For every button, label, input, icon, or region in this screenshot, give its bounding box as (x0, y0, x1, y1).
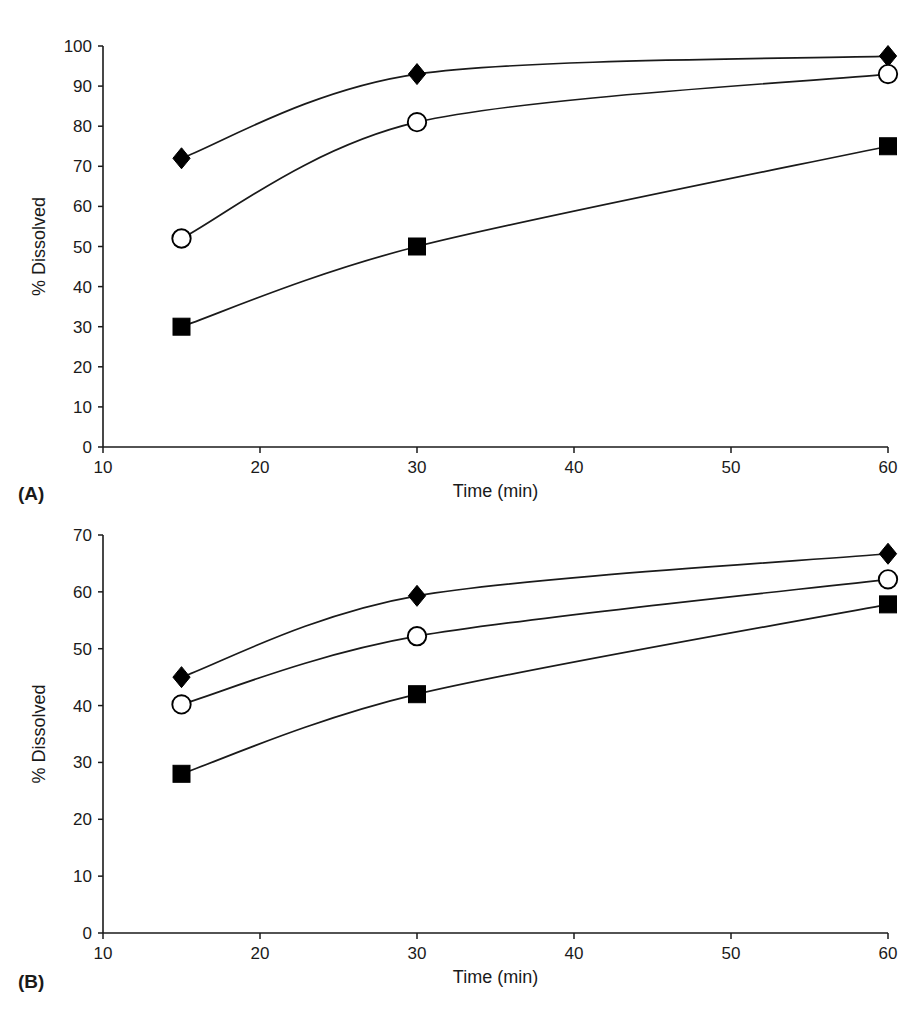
y-axis-title: % Dissolved (29, 197, 49, 296)
series-line-filled-square (182, 146, 889, 326)
x-tick-label: 10 (94, 944, 113, 963)
data-point-diamond (879, 543, 896, 564)
data-point-diamond (173, 667, 190, 688)
series-line-filled-diamond (182, 56, 889, 158)
y-tick-label: 70 (73, 526, 92, 545)
x-tick-label: 40 (565, 944, 584, 963)
panel-letter: (B) (18, 971, 44, 992)
series-filled-diamond (173, 543, 897, 687)
y-axis-title: % Dissolved (29, 684, 49, 783)
data-point-circle (408, 627, 426, 645)
y-tick-label: 40 (73, 278, 92, 297)
y-tick-label: 40 (73, 697, 92, 716)
data-point-circle (879, 65, 897, 83)
y-tick-label: 100 (64, 37, 92, 56)
series-open-circle (172, 570, 897, 713)
y-tick-label: 30 (73, 318, 92, 337)
data-point-diamond (408, 64, 425, 85)
series-filled-square (173, 138, 897, 335)
series-line-open-circle (182, 74, 889, 238)
series-line-filled-square (182, 604, 889, 773)
data-point-diamond (408, 585, 425, 606)
data-point-square (409, 238, 426, 255)
series-line-open-circle (182, 579, 889, 704)
data-point-circle (172, 695, 190, 713)
data-point-circle (879, 570, 897, 588)
data-point-diamond (879, 46, 896, 67)
y-tick-label: 60 (73, 197, 92, 216)
series-filled-diamond (173, 46, 897, 169)
x-axis-title: Time (min) (453, 481, 538, 501)
data-point-square (173, 318, 190, 335)
y-tick-label: 10 (73, 867, 92, 886)
y-tick-label: 90 (73, 77, 92, 96)
figure-root: — ———— — 0102030405060708090100102030405… (0, 0, 923, 1019)
y-tick-label: 70 (73, 157, 92, 176)
x-tick-label: 60 (879, 944, 898, 963)
y-tick-label: 0 (83, 438, 92, 457)
data-point-square (880, 138, 897, 155)
chart-svg-panel-b: 010203040506070102030405060Time (min)% D… (0, 510, 923, 1019)
x-tick-label: 20 (251, 458, 270, 477)
y-tick-label: 50 (73, 238, 92, 257)
y-tick-label: 80 (73, 117, 92, 136)
chart-panel-b: 010203040506070102030405060Time (min)% D… (0, 510, 923, 1019)
y-tick-label: 10 (73, 398, 92, 417)
data-point-square (880, 596, 897, 613)
y-tick-label: 30 (73, 753, 92, 772)
series-line-filled-diamond (182, 554, 889, 677)
data-point-diamond (173, 148, 190, 169)
x-tick-label: 10 (94, 458, 113, 477)
data-point-square (173, 765, 190, 782)
x-tick-label: 30 (408, 458, 427, 477)
data-point-circle (408, 113, 426, 131)
x-axis-title: Time (min) (453, 967, 538, 987)
y-tick-label: 60 (73, 583, 92, 602)
y-tick-label: 0 (83, 924, 92, 943)
y-tick-label: 20 (73, 358, 92, 377)
x-tick-label: 50 (722, 944, 741, 963)
chart-svg-panel-a: 0102030405060708090100102030405060Time (… (0, 0, 923, 510)
data-point-square (409, 686, 426, 703)
x-tick-label: 60 (879, 458, 898, 477)
x-tick-label: 50 (722, 458, 741, 477)
data-point-circle (172, 229, 190, 247)
series-filled-square (173, 596, 897, 782)
x-tick-label: 20 (251, 944, 270, 963)
y-tick-label: 50 (73, 640, 92, 659)
x-tick-label: 30 (408, 944, 427, 963)
y-tick-label: 20 (73, 810, 92, 829)
chart-panel-a: 0102030405060708090100102030405060Time (… (0, 0, 923, 510)
x-tick-label: 40 (565, 458, 584, 477)
panel-letter: (A) (18, 483, 44, 504)
